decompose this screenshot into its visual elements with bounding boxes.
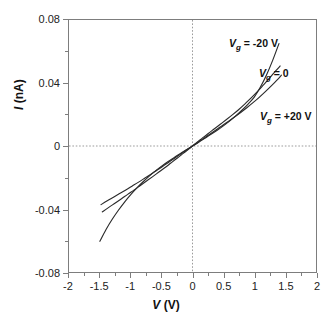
x-tick-label: 0 bbox=[189, 280, 195, 292]
y-axis-unit: (nA) bbox=[12, 79, 26, 103]
curve-label-symbol: V bbox=[259, 67, 266, 79]
curve-label-value: = +20 V bbox=[272, 110, 312, 122]
x-tick bbox=[239, 273, 240, 276]
x-tick bbox=[301, 273, 302, 276]
x-tick bbox=[270, 273, 271, 276]
curve-label-vg-plus20: Vg = +20 V bbox=[260, 110, 312, 125]
y-tick bbox=[65, 51, 68, 52]
x-axis-title: V (V) bbox=[0, 298, 332, 312]
x-tick-label: -1.5 bbox=[90, 280, 109, 292]
curve-label-value: = 0 bbox=[271, 67, 289, 79]
plot-area bbox=[68, 19, 317, 273]
y-tick-label: 0.04 bbox=[24, 77, 60, 89]
x-tick bbox=[224, 273, 225, 278]
y-axis-title: I (nA) bbox=[12, 79, 26, 110]
x-tick bbox=[115, 273, 116, 276]
x-tick-label: -1 bbox=[125, 280, 135, 292]
curves-layer bbox=[69, 20, 316, 272]
y-tick bbox=[63, 19, 68, 20]
x-tick bbox=[99, 273, 100, 278]
curve-vg-minus20 bbox=[100, 44, 279, 242]
y-tick bbox=[63, 273, 68, 274]
x-tick bbox=[255, 273, 256, 278]
x-axis-unit: (V) bbox=[164, 298, 180, 312]
y-tick bbox=[63, 210, 68, 211]
x-tick bbox=[208, 273, 209, 276]
x-tick bbox=[193, 273, 194, 278]
x-tick bbox=[286, 273, 287, 278]
x-tick-label: 2 bbox=[314, 280, 320, 292]
x-tick bbox=[68, 273, 69, 278]
x-tick-label: -2 bbox=[63, 280, 73, 292]
x-tick bbox=[84, 273, 85, 276]
y-tick bbox=[65, 178, 68, 179]
y-axis-unit-spacer bbox=[12, 103, 26, 106]
x-tick bbox=[130, 273, 131, 278]
y-tick bbox=[63, 146, 68, 147]
curve-vg-zero bbox=[102, 66, 280, 212]
x-tick bbox=[146, 273, 147, 276]
x-tick-label: 1 bbox=[252, 280, 258, 292]
x-tick bbox=[177, 273, 178, 276]
y-tick bbox=[65, 241, 68, 242]
y-tick-label: -0.08 bbox=[24, 267, 60, 279]
figure-iv-characteristics: -2-1.5-1-0.500.511.52 -0.08-0.0400.040.0… bbox=[0, 0, 332, 321]
y-tick-label: 0.08 bbox=[24, 13, 60, 25]
x-tick bbox=[317, 273, 318, 278]
y-axis-symbol: I bbox=[12, 107, 26, 110]
x-tick bbox=[161, 273, 162, 278]
curve-label-vg-minus20: Vg = -20 V bbox=[229, 37, 278, 52]
curve-label-symbol: V bbox=[229, 37, 236, 49]
x-tick-label: 0.5 bbox=[216, 280, 231, 292]
curve-label-value: = -20 V bbox=[241, 37, 278, 49]
curve-label-symbol: V bbox=[260, 110, 267, 122]
y-tick bbox=[63, 83, 68, 84]
y-tick bbox=[65, 114, 68, 115]
y-tick-label: 0 bbox=[24, 140, 60, 152]
x-tick-label: 1.5 bbox=[278, 280, 293, 292]
y-tick-label: -0.04 bbox=[24, 204, 60, 216]
curve-label-vg-zero: Vg = 0 bbox=[259, 67, 289, 82]
x-tick-label: -0.5 bbox=[152, 280, 171, 292]
